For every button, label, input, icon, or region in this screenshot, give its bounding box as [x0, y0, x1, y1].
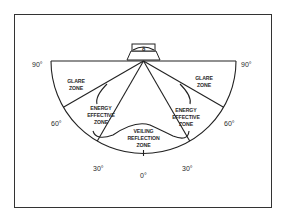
svg-text:EFFECTIVE: EFFECTIVE: [172, 114, 200, 120]
energy-zone-left-label: ENERGY EFFECTIVE ZONE: [87, 105, 115, 125]
svg-text:ENERGY: ENERGY: [175, 107, 197, 113]
svg-text:VEILING: VEILING: [133, 128, 153, 134]
svg-text:ZONE: ZONE: [197, 82, 212, 88]
veiling-zone-label: VEILING REFLECTION ZONE: [127, 128, 159, 148]
angle-left-30: 30°: [93, 165, 104, 172]
svg-text:ENERGY: ENERGY: [90, 105, 112, 111]
svg-text:EFFECTIVE: EFFECTIVE: [87, 112, 115, 118]
angle-left-90: 90°: [32, 61, 43, 68]
angle-right-30: 30°: [182, 165, 193, 172]
glare-zone-right-label: GLARE ZONE: [195, 75, 213, 88]
angle-left-60: 60°: [51, 120, 62, 127]
ray-60-right: [144, 61, 224, 107]
angle-right-60: 60°: [224, 120, 235, 127]
svg-text:REFLECTION: REFLECTION: [127, 135, 159, 141]
svg-text:GLARE: GLARE: [195, 75, 213, 81]
angle-bottom-0: 0°: [140, 172, 147, 179]
svg-text:ZONE: ZONE: [179, 121, 194, 127]
svg-text:ZONE: ZONE: [69, 85, 84, 91]
zone-diagram: 8 90° 90° 60° 60° 30° 30° 0° GLARE ZONE …: [0, 0, 287, 221]
luminaire-icon: 8: [127, 44, 160, 60]
svg-text:ZONE: ZONE: [94, 119, 109, 125]
svg-text:ZONE: ZONE: [136, 142, 151, 148]
svg-text:GLARE: GLARE: [67, 78, 85, 84]
angle-right-90: 90°: [241, 61, 252, 68]
glare-zone-left-label: GLARE ZONE: [67, 78, 85, 91]
energy-zone-right-label: ENERGY EFFECTIVE ZONE: [172, 107, 200, 127]
